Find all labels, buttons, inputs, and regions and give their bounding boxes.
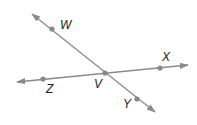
diagram-canvas: WXVZY bbox=[0, 0, 197, 125]
label-Y: Y bbox=[123, 97, 132, 111]
point-V bbox=[102, 70, 107, 75]
label-Z: Z bbox=[45, 82, 54, 96]
point-W bbox=[49, 26, 54, 31]
point-Z bbox=[40, 76, 45, 81]
point-Y bbox=[134, 96, 139, 101]
label-X: X bbox=[161, 50, 171, 64]
label-W: W bbox=[60, 18, 73, 32]
point-X bbox=[157, 65, 162, 70]
label-V: V bbox=[94, 77, 103, 91]
